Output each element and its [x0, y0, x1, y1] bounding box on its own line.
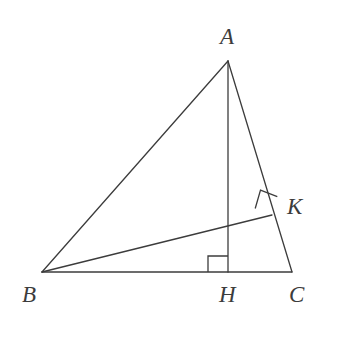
right-angle-at-K [255, 190, 277, 208]
vertex-label-H: H [219, 283, 236, 306]
right-angle-at-H [208, 256, 228, 272]
vertex-label-K: K [287, 195, 302, 218]
geometry-canvas [0, 0, 338, 339]
vertex-label-A: A [220, 25, 234, 48]
segment-AC [228, 61, 292, 272]
geometry-figure: A B C H K [0, 0, 338, 339]
vertex-label-C: C [289, 283, 304, 306]
segment-AB [42, 61, 228, 272]
segment-BK [42, 215, 272, 272]
vertex-label-B: B [22, 283, 36, 306]
